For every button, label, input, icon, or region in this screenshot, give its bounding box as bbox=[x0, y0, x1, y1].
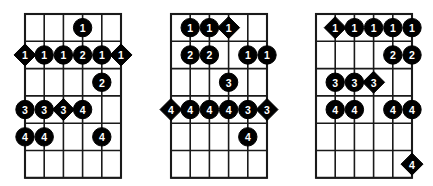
marker-circle-1: 1 bbox=[200, 18, 218, 36]
marker-finger-number: 1 bbox=[409, 22, 415, 34]
marker-finger-number: 2 bbox=[409, 49, 415, 61]
marker-finger-number: 4 bbox=[206, 104, 212, 116]
marker-diamond-3: 3 bbox=[52, 99, 74, 121]
marker-finger-number: 1 bbox=[351, 22, 357, 34]
marker-circle-1: 1 bbox=[345, 18, 363, 36]
marker-circle-2: 2 bbox=[93, 73, 111, 91]
marker-circle-1: 1 bbox=[239, 46, 257, 64]
marker-finger-number: 4 bbox=[168, 104, 174, 116]
marker-circle-1: 1 bbox=[258, 46, 276, 64]
marker-finger-number: 4 bbox=[332, 104, 338, 116]
diagram-3: 111112233344444 bbox=[291, 0, 433, 186]
marker-finger-number: 1 bbox=[206, 22, 212, 34]
marker-circle-4: 4 bbox=[345, 100, 363, 118]
marker-finger-number: 3 bbox=[245, 104, 251, 116]
marker-finger-number: 1 bbox=[22, 49, 28, 61]
marker-finger-number: 4 bbox=[22, 131, 28, 143]
marker-finger-number: 4 bbox=[226, 104, 232, 116]
marker-diamond-3: 3 bbox=[256, 99, 278, 121]
marker-finger-number: 3 bbox=[332, 77, 338, 89]
markers: 111121123334444 bbox=[14, 18, 132, 146]
diagram-1-canvas: 111121123334444 bbox=[0, 0, 145, 186]
marker-finger-number: 3 bbox=[60, 104, 66, 116]
marker-finger-number: 4 bbox=[187, 104, 193, 116]
marker-finger-number: 2 bbox=[187, 49, 193, 61]
marker-circle-4: 4 bbox=[219, 100, 237, 118]
marker-finger-number: 4 bbox=[409, 104, 415, 116]
fret-lines bbox=[171, 14, 267, 178]
marker-finger-number: 2 bbox=[390, 49, 396, 61]
marker-circle-1: 1 bbox=[384, 18, 402, 36]
marker-finger-number: 4 bbox=[80, 104, 86, 116]
diagram-2: 111221134444334 bbox=[146, 0, 291, 186]
marker-finger-number: 1 bbox=[371, 22, 377, 34]
marker-diamond-1: 1 bbox=[324, 17, 346, 39]
marker-circle-1: 1 bbox=[181, 18, 199, 36]
marker-circle-4: 4 bbox=[403, 100, 421, 118]
marker-circle-3: 3 bbox=[345, 73, 363, 91]
marker-circle-4: 4 bbox=[384, 100, 402, 118]
marker-finger-number: 1 bbox=[332, 22, 338, 34]
marker-finger-number: 4 bbox=[351, 104, 357, 116]
marker-finger-number: 2 bbox=[99, 77, 105, 89]
marker-circle-3: 3 bbox=[219, 73, 237, 91]
marker-finger-number: 4 bbox=[409, 159, 415, 171]
diagram-2-canvas: 111221134444334 bbox=[146, 0, 291, 186]
diagram-3-canvas: 111112233344444 bbox=[291, 0, 433, 186]
marker-finger-number: 3 bbox=[226, 77, 232, 89]
diagram-1: 111121123334444 bbox=[0, 0, 145, 186]
marker-finger-number: 1 bbox=[245, 49, 251, 61]
markers: 111221134444334 bbox=[160, 17, 278, 146]
marker-circle-1: 1 bbox=[93, 46, 111, 64]
marker-finger-number: 4 bbox=[245, 131, 251, 143]
marker-circle-3: 3 bbox=[326, 73, 344, 91]
marker-circle-4: 4 bbox=[93, 128, 111, 146]
marker-circle-3: 3 bbox=[239, 100, 257, 118]
marker-finger-number: 1 bbox=[41, 49, 47, 61]
marker-finger-number: 2 bbox=[80, 49, 86, 61]
marker-finger-number: 1 bbox=[226, 22, 232, 34]
marker-finger-number: 1 bbox=[60, 49, 66, 61]
fret-lines bbox=[316, 14, 412, 178]
marker-finger-number: 4 bbox=[41, 131, 47, 143]
fret-lines bbox=[25, 14, 121, 178]
marker-circle-4: 4 bbox=[181, 100, 199, 118]
marker-circle-2: 2 bbox=[200, 46, 218, 64]
marker-diamond-1: 1 bbox=[110, 44, 132, 66]
marker-circle-2: 2 bbox=[73, 46, 91, 64]
marker-circle-4: 4 bbox=[239, 128, 257, 146]
marker-finger-number: 3 bbox=[41, 104, 47, 116]
marker-finger-number: 3 bbox=[22, 104, 28, 116]
marker-circle-4: 4 bbox=[35, 128, 53, 146]
marker-finger-number: 4 bbox=[390, 104, 396, 116]
marker-circle-2: 2 bbox=[181, 46, 199, 64]
marker-finger-number: 3 bbox=[351, 77, 357, 89]
marker-finger-number: 1 bbox=[187, 22, 193, 34]
marker-finger-number: 1 bbox=[99, 49, 105, 61]
marker-diamond-1: 1 bbox=[14, 44, 36, 66]
marker-diamond-4: 4 bbox=[160, 99, 182, 121]
marker-circle-1: 1 bbox=[403, 18, 421, 36]
marker-diamond-1: 1 bbox=[218, 17, 240, 39]
marker-circle-3: 3 bbox=[35, 100, 53, 118]
marker-finger-number: 2 bbox=[206, 49, 212, 61]
marker-finger-number: 4 bbox=[99, 131, 105, 143]
marker-circle-4: 4 bbox=[73, 100, 91, 118]
marker-diamond-3: 3 bbox=[363, 71, 385, 93]
marker-circle-4: 4 bbox=[16, 128, 34, 146]
marker-circle-1: 1 bbox=[35, 46, 53, 64]
marker-circle-1: 1 bbox=[54, 46, 72, 64]
marker-circle-4: 4 bbox=[200, 100, 218, 118]
marker-circle-1: 1 bbox=[73, 18, 91, 36]
marker-finger-number: 3 bbox=[264, 104, 270, 116]
marker-circle-1: 1 bbox=[364, 18, 382, 36]
marker-finger-number: 1 bbox=[264, 49, 270, 61]
marker-finger-number: 3 bbox=[371, 77, 377, 89]
marker-finger-number: 1 bbox=[390, 22, 396, 34]
marker-diamond-4: 4 bbox=[401, 153, 423, 175]
fretboard-diagram-set: 1111211233344441112211344443341111122333… bbox=[0, 0, 433, 186]
marker-finger-number: 1 bbox=[80, 22, 86, 34]
marker-finger-number: 1 bbox=[118, 49, 124, 61]
marker-circle-3: 3 bbox=[16, 100, 34, 118]
marker-circle-2: 2 bbox=[384, 46, 402, 64]
